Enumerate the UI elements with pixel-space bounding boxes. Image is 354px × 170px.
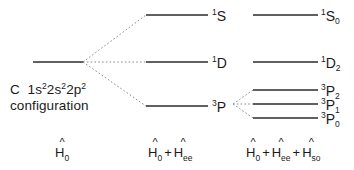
energy-level-diagram: C 1s22s22p2 configuration 1S1D3P1S01D23P… xyxy=(0,0,354,170)
term-symbol-1S: 1S xyxy=(212,8,226,23)
hamiltonian-subscript: 0 xyxy=(157,153,162,163)
term-letter: S xyxy=(326,8,335,24)
term-total-angular-momentum: 0 xyxy=(335,119,340,129)
connector-secondary-0 xyxy=(233,90,253,104)
configuration-line-2: configuration xyxy=(10,98,89,115)
term-letter: D xyxy=(217,55,227,71)
configuration-line-1: C 1s22s22p2 xyxy=(10,82,86,97)
hamiltonian-operator: + xyxy=(162,146,174,159)
hamiltonian-term-ee: ^Hee xyxy=(272,146,291,162)
term-total-angular-momentum: 2 xyxy=(336,63,341,73)
hamiltonian-subscript: ee xyxy=(183,153,192,163)
operator-hat-accent: ^ xyxy=(309,137,314,148)
connector-primary-2 xyxy=(83,62,146,106)
hamiltonian-subscript: 0 xyxy=(64,153,69,163)
hamiltonian-term-0: ^H0 xyxy=(148,146,162,162)
operator-hat-accent: ^ xyxy=(250,137,255,148)
hamiltonian-subscript: 0 xyxy=(255,153,260,163)
hamiltonian-term-so: ^Hso xyxy=(302,146,320,162)
term-symbol-1D2: 1D2 xyxy=(321,55,341,73)
hamiltonian-operator: + xyxy=(260,146,272,159)
term-letter: D xyxy=(326,55,336,71)
hamiltonian-label-h0: ^H0 xyxy=(55,146,69,162)
connector-secondary-2 xyxy=(233,104,253,118)
operator-hat-accent: ^ xyxy=(59,137,64,148)
hamiltonian-term-ee: ^Hee xyxy=(174,146,193,162)
hamiltonian-label-h0-hee-hso: ^H0+^Hee+^Hso xyxy=(246,146,321,162)
term-letter: S xyxy=(217,8,226,24)
hamiltonian-subscript: ee xyxy=(281,153,290,163)
hamiltonian-subscript: so xyxy=(312,153,321,163)
term-total-angular-momentum: 0 xyxy=(335,16,340,26)
term-symbol-1S0: 1S0 xyxy=(321,8,340,26)
operator-hat-accent: ^ xyxy=(181,137,186,148)
configuration-caption: C 1s22s22p2 configuration xyxy=(10,80,89,115)
hamiltonian-label-h0-hee: ^H0+^Hee xyxy=(148,146,193,162)
term-symbol-3P0: 3P0 xyxy=(321,111,340,129)
hamiltonian-operator: + xyxy=(291,146,303,159)
operator-hat-accent: ^ xyxy=(152,137,157,148)
connector-primary-0 xyxy=(83,15,146,62)
hamiltonian-term-0: ^H0 xyxy=(55,146,69,162)
connector-lines-group xyxy=(83,15,253,118)
hamiltonian-term-0: ^H0 xyxy=(246,146,260,162)
term-symbol-1D: 1D xyxy=(212,55,227,70)
term-letter: P xyxy=(326,111,335,127)
term-letter: P xyxy=(217,99,226,115)
term-symbol-3P: 3P xyxy=(212,99,226,114)
operator-hat-accent: ^ xyxy=(279,137,284,148)
